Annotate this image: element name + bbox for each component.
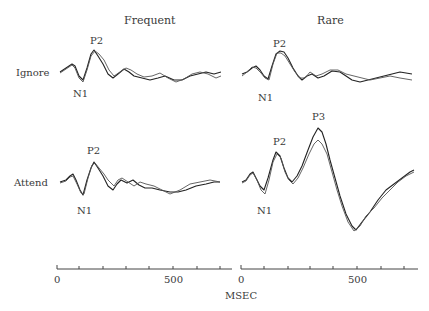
peak-label-p3: P3 [312, 111, 325, 122]
peak-label-p2: P2 [87, 145, 100, 156]
peak-label-n1: N1 [258, 92, 273, 103]
peak-label-p2: P2 [273, 136, 286, 147]
tick-label-500-right: 500 [348, 274, 367, 285]
x-axis-label: MSEC [225, 290, 257, 301]
erp-waveforms [0, 0, 429, 311]
peak-label-p2: P2 [273, 38, 286, 49]
x-axis-left [57, 265, 232, 269]
peak-label-p2: P2 [90, 35, 103, 46]
peak-label-n1: N1 [257, 205, 272, 216]
x-axis-right [241, 265, 418, 269]
peak-label-n1: N1 [77, 205, 92, 216]
tick-label-0-left: 0 [54, 274, 60, 285]
peak-label-n1: N1 [73, 88, 88, 99]
tick-label-0-right: 0 [238, 274, 244, 285]
tick-label-500-left: 500 [164, 274, 183, 285]
